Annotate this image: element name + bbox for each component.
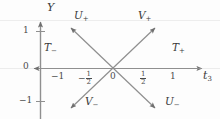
coordinate-diagram: Y t3 1 0 −1 −1 −12 0 12 1 T− T+ U+ V+ V−…: [0, 0, 220, 119]
y-tick-label-1: 1: [23, 26, 29, 35]
vector-label-u-plus: U+: [74, 10, 89, 23]
vector-label-u-minus: U−: [165, 96, 180, 109]
x-axis-label: t3: [203, 70, 212, 83]
x-tick-label-neg1: −1: [51, 72, 64, 81]
x-tick-neg-half-fraction: 12: [86, 71, 92, 87]
vector-v-plus-line: [113, 28, 155, 68]
vector-label-v-minus: V−: [85, 96, 98, 109]
region-label-t-plus: T+: [172, 42, 185, 55]
y-tick-label-0: 0: [23, 62, 29, 71]
y-axis-label: Y: [47, 2, 54, 13]
x-tick-label-half: 12: [140, 71, 146, 87]
y-tick-label-neg1: −1: [19, 96, 32, 105]
x-axis-label-subscript: 3: [207, 75, 211, 83]
x-tick-label-1: 1: [170, 72, 176, 81]
vector-label-v-plus: V+: [138, 10, 151, 23]
vector-u-plus-line: [71, 28, 113, 68]
vector-u-minus-line: [113, 68, 155, 108]
diagram-canvas: [0, 0, 220, 119]
x-tick-label-0: 0: [110, 72, 116, 81]
region-label-t-minus: T−: [44, 42, 57, 55]
x-tick-half-fraction: 12: [140, 71, 146, 87]
x-tick-label-neg-half: −12: [78, 71, 92, 87]
